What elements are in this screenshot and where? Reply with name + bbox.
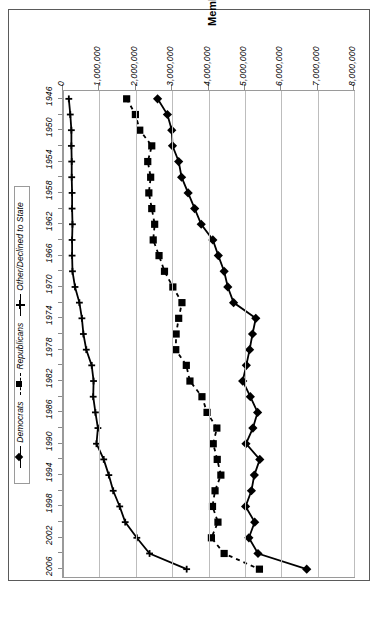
data-point — [90, 378, 97, 385]
data-point — [105, 472, 112, 479]
data-point — [68, 142, 75, 149]
category-axis-label: 2006 — [44, 556, 54, 576]
data-point — [69, 205, 76, 212]
data-point — [183, 566, 190, 573]
data-point — [72, 284, 79, 291]
data-point — [248, 423, 257, 432]
data-point — [256, 566, 263, 573]
data-point — [250, 470, 259, 479]
data-point — [214, 251, 223, 260]
data-point — [242, 361, 251, 370]
data-point — [79, 315, 86, 322]
value-axis-label: 1,000,000 — [92, 46, 102, 86]
legend-item-democrats[interactable]: Democrats — [15, 402, 25, 468]
data-point — [67, 111, 74, 118]
value-axis-label: 5,000,000 — [238, 46, 248, 86]
legend-item-republicans[interactable]: Republicans — [15, 323, 25, 395]
data-point — [238, 376, 247, 385]
category-axis-label: 1962 — [44, 212, 54, 232]
data-point — [116, 503, 123, 510]
category-axis-label: 2002 — [44, 525, 54, 545]
data-point — [210, 440, 217, 447]
gridline — [172, 91, 173, 577]
category-axis-label: 1970 — [44, 274, 54, 294]
data-point — [69, 268, 76, 275]
data-point — [150, 236, 157, 243]
data-point — [65, 95, 72, 102]
value-axis-label: 7,000,000 — [311, 46, 321, 86]
legend-label: Democrats — [15, 402, 25, 443]
data-point — [173, 330, 180, 337]
data-point — [92, 409, 99, 416]
data-point — [174, 157, 183, 166]
data-point — [68, 158, 75, 165]
category-axis-label: 1978 — [44, 337, 54, 357]
data-point — [144, 158, 151, 165]
data-point — [217, 471, 224, 478]
data-point — [90, 393, 97, 400]
data-point — [186, 377, 193, 384]
data-point — [161, 268, 168, 275]
data-point — [88, 362, 95, 369]
data-point — [68, 174, 75, 181]
data-point — [250, 518, 259, 527]
data-point — [68, 127, 75, 134]
category-axis-label: 1946 — [44, 86, 54, 106]
gridline — [318, 91, 319, 577]
data-point — [211, 487, 218, 494]
data-point — [155, 252, 162, 259]
data-point — [245, 345, 254, 354]
data-point — [172, 346, 179, 353]
data-point — [302, 565, 311, 574]
gridline — [63, 91, 64, 577]
category-axis-label: 1990 — [44, 431, 54, 451]
gridline — [354, 91, 355, 577]
category-axis-label: 1950 — [44, 117, 54, 137]
data-point — [214, 456, 221, 463]
data-point — [148, 142, 155, 149]
category-axis-label: 1974 — [44, 306, 54, 326]
data-point — [221, 550, 228, 557]
data-point — [247, 486, 256, 495]
gridline — [281, 91, 282, 577]
data-point — [69, 190, 76, 197]
data-point — [178, 299, 185, 306]
data-point — [175, 315, 182, 322]
value-axis-label: 2,000,000 — [129, 46, 139, 86]
diamond-marker-icon — [15, 446, 25, 468]
data-point — [148, 205, 155, 212]
series-line — [127, 99, 260, 569]
data-point — [213, 424, 220, 431]
data-point — [253, 408, 262, 417]
category-axis-label: 1966 — [44, 243, 54, 263]
value-axis-label: 3,000,000 — [165, 46, 175, 86]
data-point — [153, 94, 162, 103]
data-point — [209, 503, 216, 510]
series-republicans — [123, 95, 263, 573]
value-axis-label: 4,000,000 — [202, 46, 212, 86]
category-axis-label: 1954 — [44, 149, 54, 169]
gridline — [136, 91, 137, 577]
data-point — [248, 329, 257, 338]
data-point — [83, 346, 90, 353]
legend-item-other-declined-to-state[interactable]: Other/Declined to State — [15, 202, 25, 315]
data-point — [69, 237, 76, 244]
data-point — [145, 189, 152, 196]
data-point — [69, 221, 76, 228]
gridline — [209, 91, 210, 577]
value-axis-label: 8,000,000 — [347, 46, 357, 86]
gridline — [99, 91, 100, 577]
data-point — [184, 188, 193, 197]
plot-area — [62, 90, 355, 578]
data-point — [203, 409, 210, 416]
cross-marker-icon — [15, 294, 25, 316]
data-point — [151, 221, 158, 228]
series-line — [158, 99, 307, 569]
category-axis-label: 1994 — [44, 462, 54, 482]
data-point — [220, 267, 229, 276]
data-point — [163, 110, 172, 119]
value-axis-label: 6,000,000 — [274, 46, 284, 86]
data-point — [214, 519, 221, 526]
data-point — [190, 204, 199, 213]
data-point — [123, 95, 130, 102]
